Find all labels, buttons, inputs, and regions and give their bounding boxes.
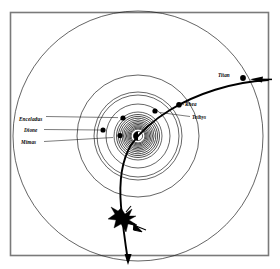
saturn-system-figure: Enceladus Dione Mimas Tethys Rhea Titan <box>0 0 280 269</box>
label-dione: Dione <box>23 127 38 133</box>
moon-dot-titan <box>240 75 246 81</box>
trajectory-diagram-canvas: Enceladus Dione Mimas Tethys Rhea Titan <box>0 0 280 269</box>
label-enceladus: Enceladus <box>18 116 42 122</box>
label-mimas: Mimas <box>20 139 36 145</box>
moon-dot-mimas <box>117 133 122 138</box>
label-tethys: Tethys <box>192 114 206 120</box>
moon-dot-tethys <box>152 108 157 113</box>
moon-dot-enceladus <box>120 115 125 120</box>
label-titan: Titan <box>218 72 230 78</box>
moon-dot-rhea <box>176 102 182 108</box>
moon-dot-dione <box>100 127 105 132</box>
label-rhea: Rhea <box>185 101 197 107</box>
